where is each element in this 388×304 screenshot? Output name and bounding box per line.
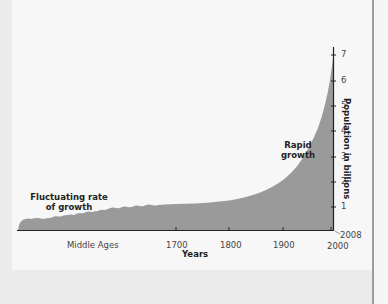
x-tick-2008: 2008 [340,230,362,240]
annotation-rapid-growth: Rapid growth [278,140,318,160]
x-tick-1900: 1900 [273,240,295,250]
y-tick-7: 7 [341,49,346,59]
annotation-fluctuating-line1: Fluctuating rate [24,192,114,202]
x-tick-1800: 1800 [220,240,242,250]
x-tick-2000: 2000 [327,241,349,251]
annotation-fluctuating-line2: of growth [24,202,114,212]
annotation-rapid-line2: growth [278,150,318,160]
y-tick-6: 6 [341,75,346,85]
annotation-rapid-line1: Rapid [278,140,318,150]
x-tick-middle-ages: Middle Ages [67,240,119,250]
y-tick-1: 1 [341,201,346,211]
annotation-fluctuating-growth: Fluctuating rate of growth [24,192,114,212]
x-axis-title: Years [182,249,208,259]
y-axis-title: Population in billions [342,98,352,199]
